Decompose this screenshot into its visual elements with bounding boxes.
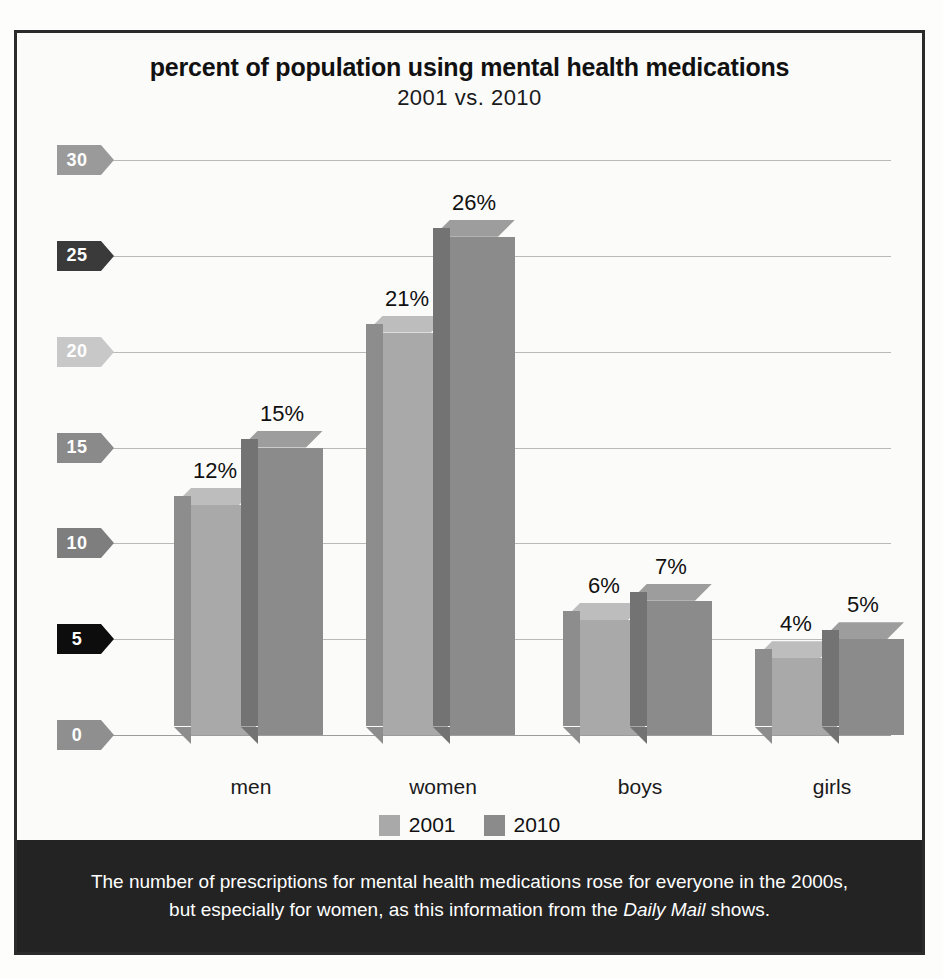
caption-line-1: The number of prescriptions for mental h…: [91, 868, 848, 896]
bar-value-label-men-2010: 15%: [231, 401, 333, 427]
bar-bottom-wedge: [433, 727, 450, 744]
legend-label-2010: 2010: [514, 813, 561, 837]
bar-bottom-wedge: [241, 727, 258, 744]
caption-bar: The number of prescriptions for mental h…: [17, 840, 922, 952]
legend-swatch-2010: [484, 815, 505, 836]
category-label-boys: boys: [570, 775, 710, 799]
bar-bottom-wedge: [563, 727, 580, 744]
chart-figure: percent of population using mental healt…: [14, 30, 925, 955]
y-axis-tick-label: 25: [66, 245, 87, 266]
bar-front-face: [839, 639, 904, 735]
bar-side-face: [755, 649, 772, 726]
y-axis-tick-label: 0: [72, 725, 83, 746]
bar-bottom-wedge: [822, 727, 839, 744]
bar-side-face: [241, 439, 258, 727]
bar-value-label-boys-2010: 7%: [620, 554, 722, 580]
bar-boys-2010: [647, 601, 712, 735]
y-axis-tick-pennant-icon: [101, 528, 114, 558]
category-label-men: men: [181, 775, 321, 799]
y-axis-tick-label: 30: [66, 150, 87, 171]
bar-side-face: [433, 228, 450, 726]
bar-side-face: [822, 630, 839, 726]
y-axis-tick-pennant-icon: [101, 433, 114, 463]
bar-men-2010: [258, 448, 323, 736]
bar-bottom-wedge: [366, 727, 383, 744]
y-axis-tick-25: 25: [57, 241, 101, 271]
legend-swatch-2001: [379, 815, 400, 836]
legend-label-2001: 2001: [409, 813, 456, 837]
bar-value-label-women-2010: 26%: [423, 190, 525, 216]
bar-side-face: [366, 324, 383, 727]
y-axis-tick-pennant-icon: [101, 720, 114, 750]
y-axis-tick-label: 15: [66, 437, 87, 458]
bar-front-face: [258, 448, 323, 736]
bar-girls-2010: [839, 639, 904, 735]
gridline-30: [95, 160, 891, 161]
y-axis-tick-pennant-icon: [101, 145, 114, 175]
caption-source-name: Daily Mail: [623, 899, 705, 920]
y-axis-tick-pennant-icon: [101, 241, 114, 271]
category-label-women: women: [373, 775, 513, 799]
y-axis-tick-label: 10: [66, 533, 87, 554]
y-axis-tick-0: 0: [57, 720, 101, 750]
category-label-girls: girls: [762, 775, 902, 799]
bar-bottom-wedge: [755, 727, 772, 744]
bar-bottom-wedge: [174, 727, 191, 744]
y-axis-tick-30: 30: [57, 145, 101, 175]
y-axis-tick-10: 10: [57, 528, 101, 558]
bar-women-2010: [450, 237, 515, 735]
bar-front-face: [647, 601, 712, 735]
legend-item-2010[interactable]: 2010: [484, 813, 561, 837]
y-axis-tick-15: 15: [57, 433, 101, 463]
chart-title: percent of population using mental healt…: [17, 53, 922, 82]
y-axis-tick-pennant-icon: [101, 624, 114, 654]
bar-bottom-wedge: [630, 727, 647, 744]
caption-line-2-pre: but especially for women, as this inform…: [169, 899, 623, 920]
chart-legend: 20012010: [17, 813, 922, 837]
caption-line-2-post: shows.: [706, 899, 770, 920]
y-axis-tick-label: 5: [72, 629, 83, 650]
bar-side-face: [563, 611, 580, 726]
plot-area: 051015202530 12%15%21%26%6%7%4%5% menwom…: [47, 98, 895, 773]
bar-side-face: [630, 592, 647, 726]
y-axis-tick-label: 20: [66, 341, 87, 362]
caption-line-2: but especially for women, as this inform…: [169, 896, 770, 924]
bar-value-label-girls-2010: 5%: [812, 592, 914, 618]
y-axis-tick-5: 5: [57, 624, 101, 654]
legend-item-2001[interactable]: 2001: [379, 813, 456, 837]
bar-front-face: [450, 237, 515, 735]
y-axis-tick-pennant-icon: [101, 337, 114, 367]
bar-side-face: [174, 496, 191, 726]
y-axis-tick-20: 20: [57, 337, 101, 367]
